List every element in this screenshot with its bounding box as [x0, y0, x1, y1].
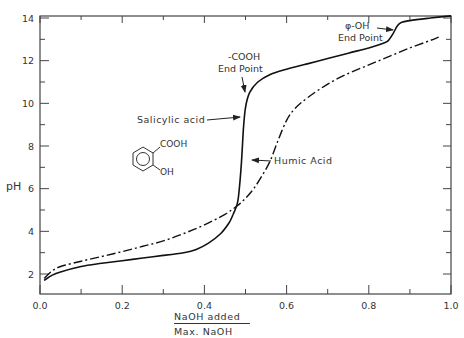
humic-acid-arrow — [252, 160, 271, 161]
x-tick-label: 0.6 — [279, 300, 294, 311]
phoh-endpoint-label-line2: End Point — [338, 32, 383, 43]
y-tick-label: 8 — [28, 141, 34, 152]
x-tick-label: 0.0 — [32, 300, 47, 311]
x-tick-label: 0.4 — [197, 300, 212, 311]
x-tick-label: 1.0 — [443, 300, 458, 311]
titration-chart: 0.00.20.40.60.81.02468101214 pH NaOH add… — [0, 0, 464, 338]
y-tick-label: 10 — [22, 98, 34, 109]
cooh-endpoint-label-line1: -COOH — [228, 51, 260, 62]
phoh-endpoint-label-line1: φ-OH — [345, 20, 369, 31]
y-tick-label: 6 — [28, 183, 34, 194]
structure-oh-label: OH — [160, 167, 174, 177]
x-axis-label-numerator: NaOH added — [174, 311, 240, 322]
salicylic-acid-arrow — [207, 117, 240, 120]
y-tick-label: 12 — [22, 55, 34, 66]
x-axis-label-denominator: Max. NaOH — [174, 326, 233, 337]
cooh-endpoint-label-line2: End Point — [218, 63, 263, 74]
salicylic-acid-label: Salicylic acid — [137, 114, 205, 125]
y-axis-label: pH — [6, 180, 21, 193]
x-tick-label: 0.2 — [115, 300, 130, 311]
phoh-endpoint-arrow — [377, 28, 393, 30]
cooh-endpoint-arrow — [242, 77, 245, 92]
structure-cooh-label: COOH — [160, 139, 187, 149]
x-tick-label: 0.8 — [361, 300, 376, 311]
y-tick-label: 4 — [28, 226, 34, 237]
salicylic-acid-structure-icon — [133, 147, 160, 171]
humic-acid-label: Humic Acid — [274, 155, 333, 166]
y-tick-label: 14 — [22, 13, 34, 24]
y-tick-label: 2 — [28, 269, 34, 280]
